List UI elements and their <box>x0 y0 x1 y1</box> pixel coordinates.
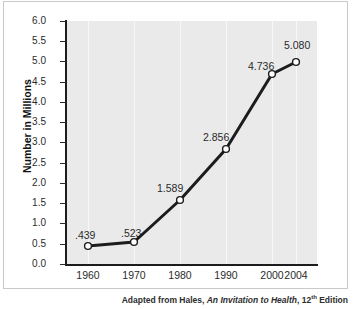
data-point-2000 <box>269 71 276 78</box>
caption-edition-word: Edition <box>319 295 348 305</box>
chart-card: 6.0 5.5 5.0 4.5 4.0 3.5 3.0 2.5 2.0 1.5 … <box>3 1 348 289</box>
data-point-2004 <box>293 59 300 66</box>
caption-prefix: Adapted from Hales, <box>122 295 205 305</box>
caption-edition-number: 12 <box>302 295 311 305</box>
data-point-1980 <box>177 197 184 204</box>
data-point-1970 <box>131 239 138 246</box>
series-polyline <box>88 62 296 246</box>
figure-container: 6.0 5.5 5.0 4.5 4.0 3.5 3.0 2.5 2.0 1.5 … <box>0 0 355 309</box>
data-series-line <box>4 2 355 309</box>
caption-comma: , <box>297 295 299 305</box>
caption-edition-suffix: th <box>311 294 317 300</box>
data-point-1960 <box>85 243 92 250</box>
caption-work-title: An Invitation to Health <box>207 295 297 305</box>
data-point-1990 <box>223 146 230 153</box>
source-caption: Adapted from Hales, An Invitation to Hea… <box>0 292 348 306</box>
